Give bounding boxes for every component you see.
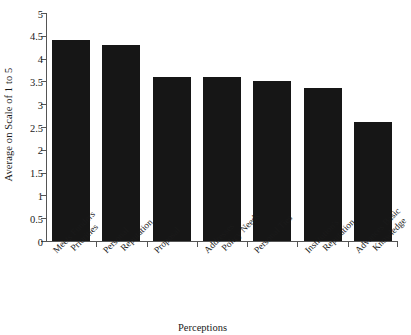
y-axis-title: Average on Scale of 1 to 5 (0, 0, 18, 248)
y-tick-label: 4 (38, 54, 43, 65)
x-tick-mark (96, 242, 97, 247)
x-tick-mark (297, 242, 298, 247)
x-tick-mark (247, 242, 248, 247)
y-tick-label: 0.5 (30, 213, 43, 224)
x-axis-title: Perceptions (0, 322, 405, 333)
bar (52, 40, 90, 241)
y-axis-line (46, 13, 47, 242)
y-tick-label: 3.5 (30, 76, 43, 87)
x-tick-mark (348, 242, 349, 247)
x-tick-mark (397, 242, 398, 247)
y-axis-title-text: Average on Scale of 1 to 5 (4, 67, 15, 181)
x-axis-title-text: Perceptions (178, 322, 227, 333)
bar (153, 77, 191, 241)
y-tick-label: 4.5 (30, 31, 43, 42)
y-tick-label: 2 (38, 145, 43, 156)
y-tick-label: 2.5 (30, 122, 43, 133)
x-tick-mark (197, 242, 198, 247)
y-tick-label: 5 (38, 8, 43, 19)
y-tick-label: 1 (38, 190, 43, 201)
y-tick-label: 3 (38, 99, 43, 110)
bar (102, 45, 140, 241)
x-tick-mark (147, 242, 148, 247)
y-tick-label: 0 (38, 236, 43, 247)
y-tick-label: 1.5 (30, 168, 43, 179)
plot-area: 00.511.522.533.544.55 (46, 13, 398, 242)
